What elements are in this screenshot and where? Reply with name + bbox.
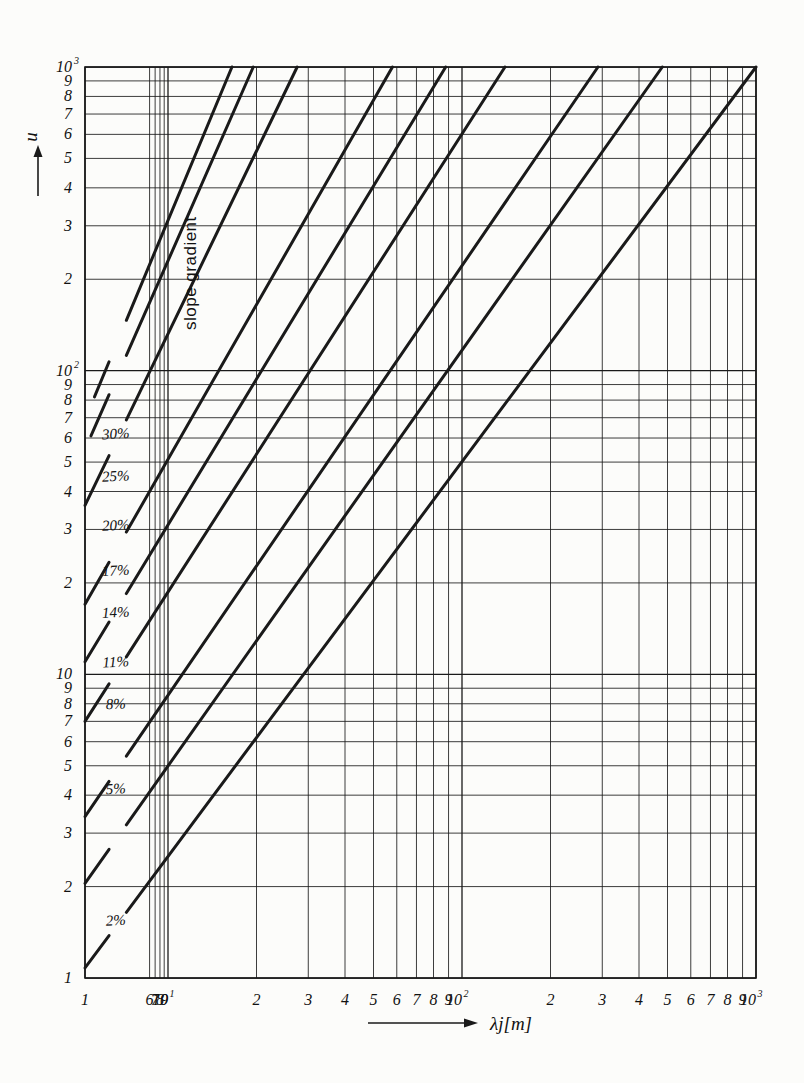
svg-text:6: 6	[687, 991, 695, 1008]
x-tick-label: 1	[81, 991, 89, 1008]
x-tick-labels: 167891012345678910223456789103	[81, 988, 763, 1008]
y-tick-label: 1	[64, 969, 72, 986]
svg-text:8: 8	[64, 695, 72, 712]
y-tick-label: 4	[64, 786, 72, 803]
svg-text:2: 2	[253, 991, 261, 1008]
svg-text:10: 10	[152, 991, 168, 1008]
y-tick-label: 8	[64, 695, 72, 712]
x-tick-label: 4	[635, 991, 643, 1008]
svg-text:2: 2	[64, 574, 72, 591]
y-tick-label: 2	[64, 574, 72, 591]
y-tick-label: 6	[64, 429, 72, 446]
svg-text:5: 5	[64, 757, 72, 774]
gradient-label: 11%	[102, 653, 129, 670]
svg-text:3: 3	[63, 824, 72, 841]
x-tick-label: 3	[597, 991, 606, 1008]
y-tick-label: 8	[64, 391, 72, 408]
y-tick-label: 3	[63, 824, 72, 841]
up-arrow-icon	[34, 145, 43, 157]
svg-text:4: 4	[64, 786, 72, 803]
svg-text:10: 10	[56, 362, 72, 379]
figure-sheet: 30%25%20%17%14%11%8%5%2%slope gradient12…	[0, 0, 804, 1083]
gradient-line-14pct	[85, 67, 446, 662]
svg-text:6: 6	[64, 429, 72, 446]
line-segment-upper	[126, 67, 445, 594]
y-tick-label: 7	[64, 105, 73, 122]
svg-text:7: 7	[413, 991, 422, 1008]
line-segment-lower	[85, 936, 109, 968]
x-tick-label: 4	[341, 991, 349, 1008]
y-tick-label: 6	[64, 733, 72, 750]
y-tick-label: 4	[64, 483, 72, 500]
x-tick-label: 2	[253, 991, 261, 1008]
x-tick-label: 6	[393, 991, 401, 1008]
x-tick-exponent: 1	[170, 988, 175, 999]
y-tick-label: 10	[56, 665, 72, 682]
y-tick-label: 2	[64, 270, 72, 287]
line-segment-lower	[94, 362, 109, 397]
svg-text:3: 3	[63, 217, 72, 234]
line-segment-lower	[85, 849, 109, 883]
x-tick-label: 3	[303, 991, 312, 1008]
svg-text:7: 7	[64, 409, 73, 426]
svg-text:2: 2	[64, 878, 72, 895]
y-tick-label: 3	[63, 217, 72, 234]
y-tick-exponent: 3	[73, 55, 79, 66]
y-tick-label: 7	[64, 409, 73, 426]
gradient-line-17pct	[85, 67, 392, 604]
line-segment-upper	[126, 67, 297, 420]
svg-text:2: 2	[547, 991, 555, 1008]
slope-gradient-caption: slope gradient	[181, 216, 200, 330]
svg-text:2: 2	[64, 270, 72, 287]
gradient-label: 17%	[102, 562, 130, 579]
x-axis-title: λj[m]	[489, 1013, 532, 1034]
nomogram-chart: 30%25%20%17%14%11%8%5%2%slope gradient12…	[0, 0, 804, 1083]
svg-text:8: 8	[724, 991, 732, 1008]
svg-text:10: 10	[446, 991, 462, 1008]
x-tick-label: 6	[687, 991, 695, 1008]
svg-text:4: 4	[635, 991, 643, 1008]
svg-text:10: 10	[740, 991, 756, 1008]
y-tick-label: 102	[56, 359, 79, 379]
right-arrow-icon	[464, 1019, 478, 1028]
x-tick-label: 5	[664, 991, 672, 1008]
svg-text:1: 1	[81, 991, 89, 1008]
gradient-label: 14%	[102, 604, 130, 621]
svg-text:6: 6	[64, 125, 72, 142]
svg-text:7: 7	[64, 712, 73, 729]
x-tick-label: 103	[740, 988, 763, 1008]
gradient-label: 30%	[101, 425, 130, 442]
svg-text:5: 5	[370, 991, 378, 1008]
svg-text:4: 4	[64, 179, 72, 196]
svg-text:7: 7	[64, 105, 73, 122]
svg-text:6: 6	[393, 991, 401, 1008]
y-tick-label: 7	[64, 712, 73, 729]
gradient-line-11pct	[85, 67, 505, 721]
x-tick-label: 8	[724, 991, 732, 1008]
x-tick-label: 7	[707, 991, 716, 1008]
svg-text:3: 3	[303, 991, 312, 1008]
line-segment-upper	[126, 67, 756, 912]
y-tick-label: 5	[64, 149, 72, 166]
y-tick-label: 6	[64, 125, 72, 142]
svg-text:7: 7	[707, 991, 716, 1008]
svg-text:6: 6	[64, 733, 72, 750]
y-tick-label: 8	[64, 87, 72, 104]
svg-text:8: 8	[430, 991, 438, 1008]
line-segment-upper	[126, 67, 232, 320]
svg-text:10: 10	[56, 58, 72, 75]
y-tick-label: 4	[64, 179, 72, 196]
y-tick-label: 5	[64, 757, 72, 774]
svg-text:8: 8	[64, 87, 72, 104]
svg-text:4: 4	[64, 483, 72, 500]
y-tick-label: 2	[64, 878, 72, 895]
x-tick-label: 8	[430, 991, 438, 1008]
y-tick-labels: 123456789102345678910223456789103	[56, 55, 79, 986]
gradient-label: 2%	[105, 912, 126, 929]
svg-text:3: 3	[63, 520, 72, 537]
svg-text:5: 5	[64, 149, 72, 166]
gradient-label: 8%	[105, 695, 126, 712]
y-tick-label: 103	[56, 55, 79, 75]
y-tick-label: 3	[63, 520, 72, 537]
gradient-label: 20%	[102, 516, 130, 533]
